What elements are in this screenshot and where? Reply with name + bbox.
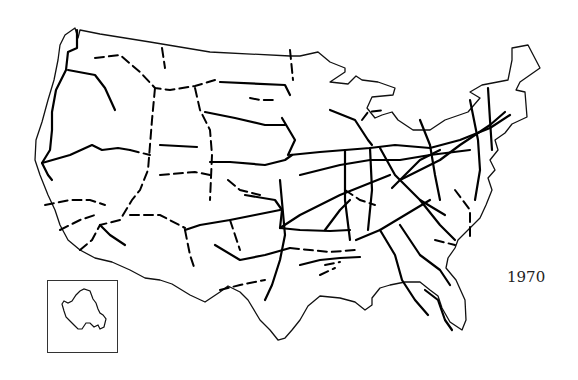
- oahu-island-shape: [48, 281, 117, 352]
- hawaii-inset: [47, 280, 118, 353]
- year-label: 1970: [507, 268, 545, 286]
